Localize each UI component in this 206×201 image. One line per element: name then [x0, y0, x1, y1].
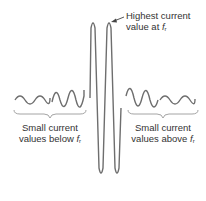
- annotation-arrowhead-icon: [111, 19, 117, 23]
- label-left-line-1: Small current: [14, 122, 86, 133]
- label-right-line-2: values above fr: [126, 133, 200, 147]
- freq-subscript: r: [79, 138, 81, 144]
- right-small-wave: [160, 96, 195, 104]
- label-above-resonance: Small current values above fr: [126, 122, 200, 147]
- annotation-line-1: Highest current: [126, 10, 190, 21]
- highest-current-annotation: Highest current value at fr: [126, 10, 190, 35]
- freq-subscript: r: [193, 138, 195, 144]
- center-resonant-wave: [90, 23, 121, 173]
- label-right-line-2-text: values above: [131, 133, 190, 144]
- label-left-line-2-text: values below: [19, 133, 77, 144]
- left-brace: [14, 110, 86, 118]
- left-medium-wave: [52, 90, 84, 107]
- freq-subscript: r: [165, 26, 167, 32]
- annotation-line-2: value at fr: [126, 21, 190, 35]
- label-right-line-1: Small current: [126, 122, 200, 133]
- left-small-wave: [15, 96, 50, 104]
- label-left-line-2: values below fr: [14, 133, 86, 147]
- annotation-line-2-text: value at: [126, 21, 162, 32]
- right-medium-wave: [126, 88, 158, 107]
- right-brace: [128, 110, 198, 118]
- label-below-resonance: Small current values below fr: [14, 122, 86, 147]
